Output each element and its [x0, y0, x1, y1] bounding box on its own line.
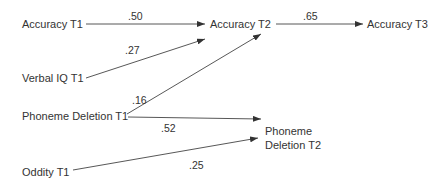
node-phoneme-deletion-t2-line1: Phoneme [265, 124, 321, 138]
edge-verbaliq-t1-to-acc-t2 [86, 39, 205, 78]
edge-oddity-t1-to-pd-t2 [73, 138, 258, 170]
node-accuracy-t3: Accuracy T3 [367, 17, 428, 31]
coef-pd-t1-acc-t2: .16 [132, 94, 147, 106]
node-phoneme-deletion-t2-line2: Deletion T2 [265, 138, 321, 152]
edge-pd-t1-to-acc-t2 [127, 34, 261, 114]
coef-oddity-pd-t2: .25 [189, 159, 204, 171]
node-accuracy-t1: Accuracy T1 [22, 17, 83, 31]
node-phoneme-deletion-t1: Phoneme Deletion T1 [22, 109, 128, 123]
node-phoneme-deletion-t2: Phoneme Deletion T2 [265, 124, 321, 152]
node-oddity-t1: Oddity T1 [22, 165, 70, 179]
edge-pd-t1-to-pd-t2 [128, 117, 261, 119]
node-verbal-iq-t1: Verbal IQ T1 [22, 71, 84, 85]
coef-acc-t1-acc-t2: .50 [128, 10, 143, 22]
coef-pd-t1-pd-t2: .52 [161, 122, 176, 134]
node-accuracy-t2: Accuracy T2 [210, 17, 271, 31]
coef-acc-t2-acc-t3: .65 [303, 10, 318, 22]
coef-verbaliq-acc-t2: .27 [125, 44, 140, 56]
